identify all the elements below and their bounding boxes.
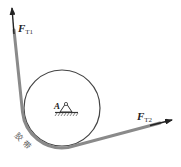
label-pin-a: A: [53, 101, 60, 111]
pulley-circle: [24, 70, 100, 146]
label-ft1-sub: T1: [25, 28, 33, 36]
pin-icon: [64, 102, 67, 105]
belt-pulley-diagram: FT1 FT2 A 胶带: [0, 0, 181, 167]
label-ft2-sub: T2: [144, 116, 152, 124]
force-arrow-ft1: [12, 8, 14, 34]
label-ft2: FT2: [136, 110, 153, 124]
force-arrow-ft2: [150, 120, 172, 126]
label-ft1: FT1: [17, 22, 34, 36]
